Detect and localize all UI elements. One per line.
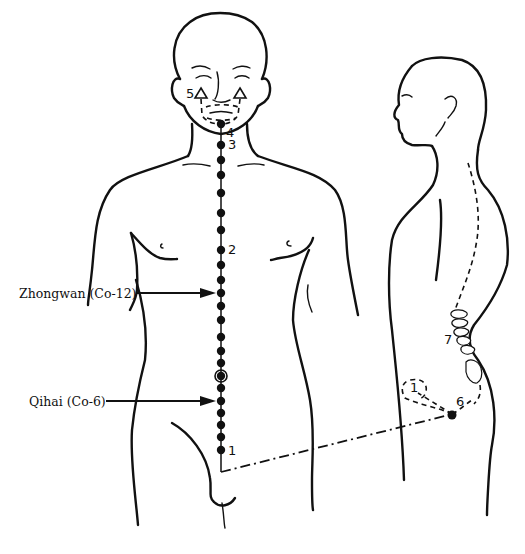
side-figure: [389, 58, 508, 515]
meridian-point: [217, 302, 225, 310]
front-head-outline: [174, 13, 267, 79]
conception-vessel: [215, 120, 227, 472]
meridian-point: [217, 397, 225, 405]
huiyin-point: [448, 411, 457, 420]
number-2: 2: [228, 242, 236, 257]
number-4: 4: [226, 125, 234, 140]
meridian-point: [217, 141, 225, 149]
side-ear: [445, 96, 456, 118]
side-numbers: 1 6 7: [410, 332, 464, 409]
front-left-waist: [132, 280, 146, 525]
side-spine-course: [455, 163, 478, 310]
side-back: [470, 150, 508, 515]
front-neck-right: [247, 124, 258, 156]
front-right-torso: [293, 250, 313, 510]
front-neck-left: [188, 124, 192, 156]
mouth: [210, 112, 232, 114]
meridian-point: [217, 347, 225, 355]
side-face: [394, 66, 432, 146]
meridian-point: [217, 333, 225, 341]
front-right-ear: [258, 79, 270, 106]
left-nipple: [161, 244, 163, 248]
zhongwan-arrowhead: [200, 288, 216, 298]
right-nipple: [287, 241, 291, 246]
meridian-point: [217, 316, 225, 324]
acupuncture-diagram: Zhongwan (Co-12) Qihai (Co-6) 1 2 3 4 5: [0, 0, 525, 554]
side-number-6: 6: [456, 394, 464, 409]
meridian-point: [217, 226, 225, 234]
left-pectoral: [131, 233, 177, 259]
right-eye: [235, 76, 249, 78]
meridian-point: [217, 276, 225, 284]
left-collarbone: [183, 164, 210, 166]
side-number-7: 7: [444, 332, 452, 347]
left-eyebrow: [192, 66, 210, 69]
nose: [213, 72, 230, 102]
number-5: 5: [186, 86, 194, 101]
meridian-point: [217, 289, 225, 297]
side-head-back: [412, 58, 486, 150]
meridian-point: [217, 446, 225, 454]
meridian-point: [217, 189, 225, 197]
connection-line: [221, 414, 453, 472]
meridian-point: [217, 433, 225, 441]
groin-left: [172, 423, 235, 505]
right-collarbone: [238, 164, 264, 166]
side-eye: [402, 95, 412, 97]
qihai-label: Qihai (Co-6): [29, 394, 106, 409]
face: [192, 66, 250, 124]
meridian-point: [217, 209, 225, 217]
number-1: 1: [228, 443, 236, 458]
meridian-point: [217, 409, 225, 417]
side-number-1: 1: [410, 380, 418, 395]
callouts: Zhongwan (Co-12) Qihai (Co-6): [19, 286, 216, 409]
front-right-torso-inner: [307, 285, 312, 312]
left-eye: [196, 76, 211, 78]
side-jaw: [436, 122, 445, 136]
meridian-point: [217, 384, 225, 392]
meridian-point: [217, 372, 225, 380]
zhongwan-label: Zhongwan (Co-12): [19, 286, 136, 301]
front-left-ear: [172, 79, 184, 106]
coccyx-marks: [474, 385, 480, 404]
meridian-point: [217, 359, 225, 367]
side-throat-chest: [389, 146, 437, 480]
qihai-arrowhead: [200, 396, 216, 406]
triangle-point-left: [195, 88, 207, 98]
meridian-point: [217, 261, 225, 269]
meridian-point: [217, 171, 225, 179]
side-arm: [436, 200, 441, 280]
triangle-point-right: [234, 88, 246, 98]
meridian-point: [217, 246, 225, 254]
meridian-point: [217, 421, 225, 429]
right-eyebrow: [233, 66, 250, 69]
meridian-point: [217, 120, 225, 128]
meridian-point: [217, 156, 225, 164]
inner-leg: [222, 503, 225, 528]
